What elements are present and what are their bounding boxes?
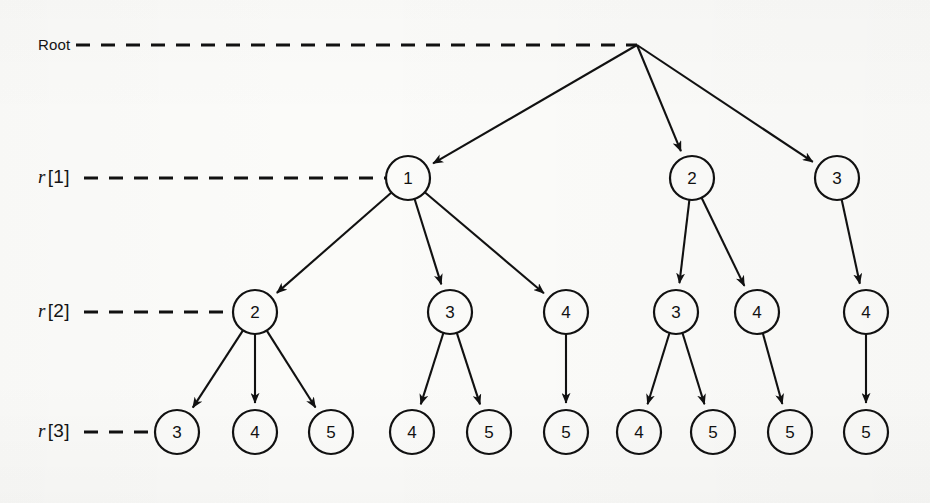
tree-node-b2[interactable]: 4 (233, 410, 277, 454)
node-label: 4 (250, 423, 259, 442)
node-label: 3 (172, 423, 181, 442)
edge-m2-b4 (421, 333, 444, 404)
edge-m4-b7 (648, 333, 670, 404)
tree-node-b4[interactable]: 4 (390, 410, 434, 454)
edge-n3-m6 (842, 200, 860, 284)
node-label: 3 (832, 169, 841, 188)
tree-node-b1[interactable]: 3 (155, 410, 199, 454)
edge-root-n3 (637, 45, 813, 162)
node-label: 4 (861, 303, 870, 322)
tree-node-m4[interactable]: 3 (654, 290, 698, 334)
edge-n1-m2 (415, 199, 442, 284)
tree-node-b9[interactable]: 5 (768, 410, 812, 454)
node-layer: 1232343443454554555 (155, 156, 888, 454)
node-label: 2 (687, 169, 696, 188)
node-label: 3 (671, 303, 680, 322)
tree-node-b5[interactable]: 5 (467, 410, 511, 454)
node-label: 4 (407, 423, 416, 442)
tree-node-m5[interactable]: 4 (735, 290, 779, 334)
tree-node-m3[interactable]: 4 (544, 290, 588, 334)
tree-node-n3[interactable]: 3 (815, 156, 859, 200)
node-label: 5 (326, 423, 335, 442)
tree-node-b8[interactable]: 5 (691, 410, 735, 454)
node-label: 1 (403, 169, 412, 188)
edge-m2-b5 (457, 333, 480, 404)
node-label: 5 (785, 423, 794, 442)
tree-node-b3[interactable]: 5 (309, 410, 353, 454)
edge-m1-b1 (193, 330, 243, 407)
guide-line-layer (76, 45, 637, 432)
tree-node-m2[interactable]: 3 (428, 290, 472, 334)
tree-node-b6[interactable]: 5 (544, 410, 588, 454)
node-label: 5 (708, 423, 717, 442)
node-label: 3 (445, 303, 454, 322)
edge-n2-m5 (702, 198, 745, 286)
node-label: 2 (250, 303, 259, 322)
node-label: 5 (561, 423, 570, 442)
edge-root-n1 (433, 45, 637, 163)
node-label: 4 (752, 303, 761, 322)
edge-n1-m3 (425, 192, 544, 293)
tree-node-m6[interactable]: 4 (844, 290, 888, 334)
edge-n1-m1 (277, 192, 392, 292)
tree-node-n1[interactable]: 1 (386, 156, 430, 200)
tree-graph: 1232343443454554555 (0, 0, 930, 503)
figure-canvas: Root r[1] r[2] r[3] 1232343443454554555 (0, 0, 930, 503)
edge-layer (193, 45, 866, 408)
edge-m1-b3 (267, 331, 316, 408)
tree-node-b10[interactable]: 5 (844, 410, 888, 454)
node-label: 4 (561, 303, 570, 322)
edge-m5-b9 (763, 333, 782, 404)
tree-node-m1[interactable]: 2 (233, 290, 277, 334)
tree-node-b7[interactable]: 4 (617, 410, 661, 454)
edge-root-n2 (637, 45, 681, 151)
tree-node-n2[interactable]: 2 (670, 156, 714, 200)
node-label: 5 (861, 423, 870, 442)
node-label: 5 (484, 423, 493, 442)
edge-m4-b8 (682, 333, 704, 404)
node-label: 4 (634, 423, 643, 442)
edge-n2-m4 (679, 200, 689, 283)
